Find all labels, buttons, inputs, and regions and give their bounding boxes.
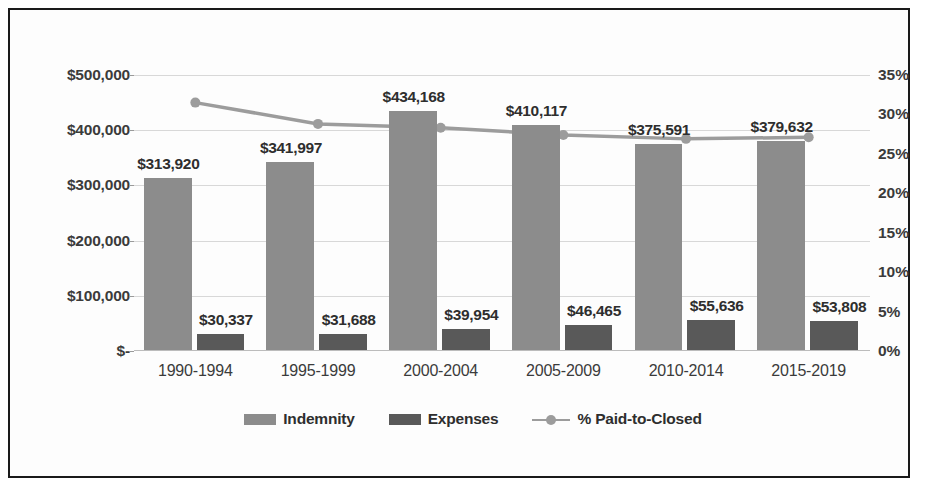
category-label: 2010-2014 [625, 362, 748, 380]
bar-label-indemnity: $379,632 [720, 118, 843, 136]
right-axis-tick-label: 15% [878, 224, 909, 242]
left-axis-tick-label: $- [117, 342, 130, 360]
right-axis-tick-label: 0% [878, 342, 900, 360]
plot-area: $313,920$30,337$341,997$31,688$434,168$3… [134, 75, 870, 351]
left-axis-tick-label: $200,000 [67, 232, 130, 250]
right-axis: 35%30%25%20%15%10%5%0% [878, 10, 926, 473]
category-axis-labels: 1990-19941995-19992000-20042005-20092010… [134, 362, 870, 380]
category-axis-line [134, 350, 870, 351]
bar-label-indemnity: $434,168 [352, 88, 475, 106]
left-axis-tick-label: $300,000 [67, 176, 130, 194]
legend-item-expenses: Expenses [389, 410, 499, 428]
legend-label-percent-paid-to-closed: % Paid-to-Closed [577, 410, 701, 428]
bar-groups: $313,920$30,337$341,997$31,688$434,168$3… [134, 75, 870, 351]
right-axis-tick-label: 20% [878, 184, 909, 202]
legend-item-indemnity: Indemnity [244, 410, 354, 428]
legend-swatch-icon [244, 414, 276, 425]
chart-frame: $500,000$400,000$300,000$200,000$100,000… [8, 8, 910, 478]
category-label: 2015-2019 [747, 362, 870, 380]
bar-group: $410,117$46,465 [502, 75, 625, 351]
left-axis-tick-label: $500,000 [67, 66, 130, 84]
bar-expenses[interactable] [442, 329, 490, 351]
bar-group: $375,591$55,636 [625, 75, 748, 351]
right-axis-tick-label: 25% [878, 145, 909, 163]
left-axis-tick-label: $400,000 [67, 121, 130, 139]
bar-group: $379,632$53,808 [747, 75, 870, 351]
bar-label-indemnity: $341,997 [230, 139, 353, 157]
bar-expenses[interactable] [687, 320, 735, 351]
right-axis-tick-label: 35% [878, 66, 909, 84]
legend-swatch-icon [389, 414, 421, 425]
bar-expenses[interactable] [810, 321, 858, 351]
bar-label-indemnity: $410,117 [475, 102, 598, 120]
axis-tick-mark [129, 351, 134, 352]
legend-item-percent-paid-to-closed: % Paid-to-Closed [532, 410, 701, 428]
bar-label-indemnity: $313,920 [107, 155, 230, 173]
category-label: 2000-2004 [379, 362, 502, 380]
bar-label-indemnity: $375,591 [598, 121, 721, 139]
legend-label-expenses: Expenses [428, 410, 499, 428]
left-axis: $500,000$400,000$300,000$200,000$100,000… [28, 10, 130, 473]
bar-expenses[interactable] [565, 325, 613, 351]
combo-chart: $500,000$400,000$300,000$200,000$100,000… [10, 10, 926, 473]
category-label: 1990-1994 [134, 362, 257, 380]
bar-indemnity[interactable] [635, 144, 683, 351]
bar-indemnity[interactable] [757, 141, 805, 351]
category-label: 1995-1999 [257, 362, 380, 380]
right-axis-tick-label: 30% [878, 105, 909, 123]
bar-label-expenses: $53,808 [778, 298, 901, 316]
bar-group: $313,920$30,337 [134, 75, 257, 351]
chart-legend: Indemnity Expenses % Paid-to-Closed [10, 410, 926, 428]
legend-line-marker-icon [532, 414, 570, 425]
bar-expenses[interactable] [197, 334, 245, 351]
category-label: 2005-2009 [502, 362, 625, 380]
left-axis-tick-label: $100,000 [67, 287, 130, 305]
legend-label-indemnity: Indemnity [283, 410, 354, 428]
bar-group: $341,997$31,688 [257, 75, 380, 351]
right-axis-tick-label: 10% [878, 263, 909, 281]
bar-expenses[interactable] [319, 334, 367, 351]
